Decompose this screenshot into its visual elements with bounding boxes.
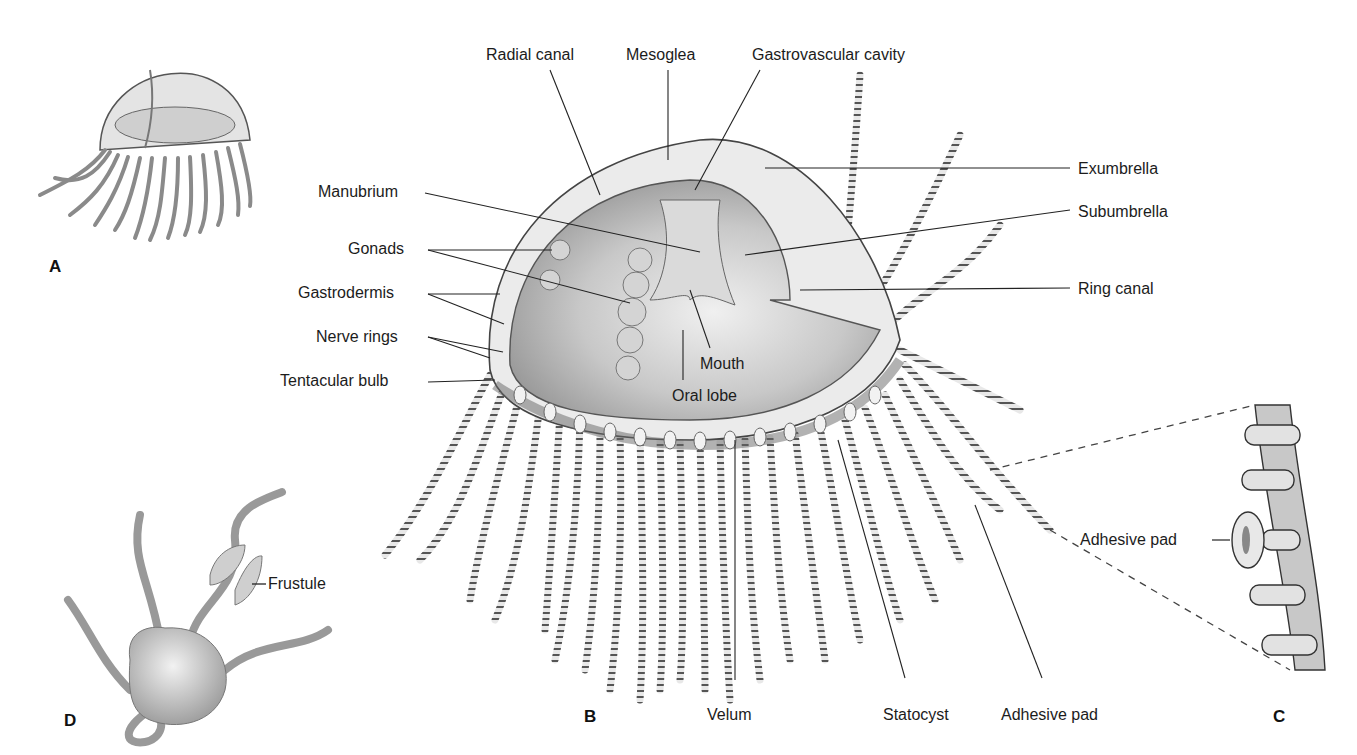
label-adhesive-pad-b: Adhesive pad [1001, 706, 1098, 724]
panel-label-c: C [1273, 707, 1285, 727]
label-gastrodermis: Gastrodermis [298, 284, 394, 302]
label-manubrium: Manubrium [318, 183, 398, 201]
label-nerve-rings: Nerve rings [316, 328, 398, 346]
label-exumbrella: Exumbrella [1078, 160, 1158, 178]
medusa-small-illustration [40, 70, 251, 240]
label-frustule: Frustule [268, 575, 326, 593]
label-ring-canal: Ring canal [1078, 280, 1154, 298]
label-subumbrella: Subumbrella [1078, 203, 1168, 221]
panel-label-a: A [49, 257, 61, 277]
label-oral-lobe: Oral lobe [672, 387, 737, 405]
polyp-illustration [68, 492, 328, 742]
panel-label-d: D [64, 711, 76, 731]
label-radial-canal: Radial canal [486, 46, 574, 64]
label-velum: Velum [707, 706, 751, 724]
label-mouth: Mouth [700, 355, 744, 373]
diagram-artwork [0, 0, 1357, 755]
panel-label-b: B [584, 707, 596, 727]
label-statocyst: Statocyst [883, 706, 949, 724]
label-adhesive-pad-c: Adhesive pad [1080, 531, 1177, 549]
label-tentacular-bulb: Tentacular bulb [280, 372, 389, 390]
label-mesoglea: Mesoglea [626, 46, 695, 64]
label-gastrovascular-cavity: Gastrovascular cavity [752, 46, 905, 64]
label-gonads: Gonads [348, 240, 404, 258]
